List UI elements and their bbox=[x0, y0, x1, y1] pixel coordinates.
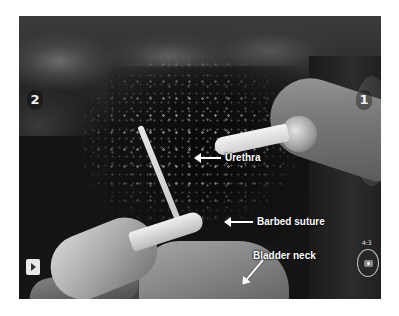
arrow-left-icon bbox=[195, 157, 221, 159]
play-icon bbox=[31, 263, 36, 271]
upper-tissue bbox=[19, 16, 381, 136]
lower-tissue-shadow bbox=[114, 256, 184, 299]
instrument-2-shaft bbox=[26, 260, 142, 299]
camera-button[interactable] bbox=[357, 249, 379, 277]
suture-thread bbox=[137, 125, 187, 237]
instrument-2-body bbox=[41, 208, 167, 299]
camera-icon bbox=[364, 260, 373, 267]
instrument-1-wrist bbox=[281, 116, 317, 152]
arrow-down-left-icon bbox=[246, 259, 264, 280]
barbed-suture-annotation: Barbed suture bbox=[225, 216, 325, 227]
barbed-suture-label: Barbed suture bbox=[257, 216, 325, 227]
aspect-ratio-label: 4:3 bbox=[362, 239, 372, 246]
instrument-2-number: 2 bbox=[27, 90, 43, 110]
instrument-2-jaw bbox=[128, 210, 206, 252]
arrow-left-icon bbox=[225, 221, 253, 223]
urethra-annotation: Urethra bbox=[195, 152, 261, 163]
urethra-label: Urethra bbox=[225, 152, 261, 163]
instrument-1-number: 1 bbox=[356, 90, 372, 110]
endoscope-video-frame: 2 1 Urethra Barbed suture Bladder neck 4… bbox=[19, 16, 381, 299]
instrument-1-body bbox=[260, 68, 381, 184]
play-button[interactable] bbox=[26, 259, 40, 275]
